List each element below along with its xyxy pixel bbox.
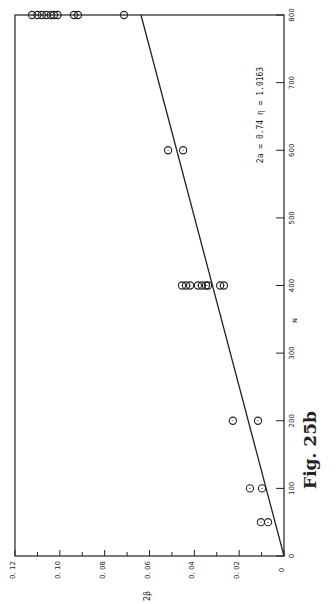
y-tick-label: 0. 10 — [54, 561, 62, 579]
y-tick-label: 0. 12 — [9, 561, 17, 579]
data-point-center — [257, 420, 258, 421]
x-tick-label: 100 — [288, 482, 296, 495]
plot-frame — [15, 15, 284, 556]
data-point-center — [232, 420, 233, 421]
data-point-center — [183, 150, 184, 151]
data-point-center — [207, 285, 208, 286]
x-tick-label: 700 — [288, 76, 296, 89]
x-tick-label: 400 — [288, 279, 296, 292]
y-tick-label: 0 — [278, 568, 286, 572]
data-point-center — [223, 285, 224, 286]
data-point-center — [57, 14, 58, 15]
annotation: 2a = 0.74 η = 1.0163 — [256, 67, 265, 164]
y-tick-label: 0. 02 — [233, 561, 241, 579]
x-tick-label: 200 — [288, 414, 296, 427]
x-tick-label: 0 — [288, 554, 296, 558]
y-tick-label: 0. 04 — [188, 561, 196, 579]
x-tick-label: 500 — [288, 211, 296, 224]
x-tick-label: 800 — [288, 8, 296, 21]
data-point-center — [205, 285, 206, 286]
x-axis-label: N — [291, 318, 298, 323]
y-axis-label: 2β — [143, 591, 152, 601]
data-point-center — [189, 285, 190, 286]
data-point-center — [260, 522, 261, 523]
data-point-center — [168, 150, 169, 151]
data-point-center — [123, 14, 124, 15]
chart: 0100200300400500600700800N00. 020. 040. … — [0, 0, 336, 604]
data-point-center — [267, 522, 268, 523]
x-tick-label: 600 — [288, 144, 296, 157]
data-point-center — [77, 14, 78, 15]
data-point-center — [31, 14, 32, 15]
y-tick-label: 0. 06 — [144, 561, 152, 579]
data-point-center — [261, 488, 262, 489]
figure-label: Fig. 25b — [300, 370, 324, 530]
data-point-center — [249, 488, 250, 489]
y-tick-label: 0. 08 — [99, 561, 107, 579]
x-tick-label: 300 — [288, 346, 296, 359]
